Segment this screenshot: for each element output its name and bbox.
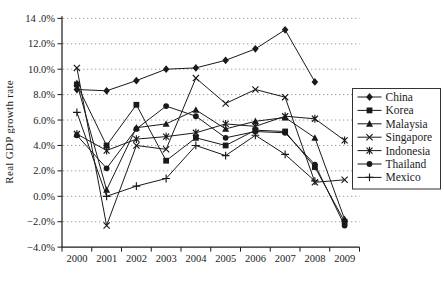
series-singapore: [74, 65, 348, 229]
series-china: [74, 26, 319, 95]
y-tick-label: −2.0%: [27, 216, 55, 227]
x-tick-label: 2007: [275, 253, 296, 264]
y-tick-label: 0.0%: [33, 191, 55, 202]
x-tick-label: 2006: [245, 253, 266, 264]
legend-label: China: [386, 91, 413, 103]
x-tick-label: 2009: [334, 253, 355, 264]
y-tick-label: 4.0%: [33, 140, 55, 151]
axes: 14 .0%12.0%10.0%8.0%6.0%4.0%2.0%0.0%−2.0…: [25, 13, 359, 264]
gdp-line-chart: 14 .0%12.0%10.0%8.0%6.0%4.0%2.0%0.0%−2.0…: [0, 0, 444, 282]
series-line-indonesia: [77, 116, 345, 150]
y-tick-label: 12.0%: [28, 38, 55, 49]
series-line-china: [77, 30, 315, 91]
legend-label: Mexico: [386, 171, 421, 183]
y-tick-label: 6.0%: [33, 115, 55, 126]
legend-label: Singapore: [386, 131, 433, 144]
legend: ChinaKoreaMalaysiaSingaporeIndonesiaThai…: [353, 89, 441, 190]
y-tick-label: 2.0%: [33, 165, 55, 176]
series-mexico: [73, 109, 319, 201]
x-tick-label: 2001: [96, 253, 117, 264]
legend-label: Malaysia: [386, 118, 428, 131]
x-tick-label: 2004: [185, 253, 207, 264]
legend-label: Thailand: [386, 158, 427, 170]
x-tick-label: 2002: [126, 253, 147, 264]
y-tick-label: 14 .0%: [25, 13, 55, 24]
x-tick-label: 2008: [304, 253, 325, 264]
legend-label: Indonesia: [386, 145, 431, 157]
y-tick-label: 8.0%: [33, 89, 55, 100]
series-line-mexico: [77, 112, 315, 196]
legend-label: Korea: [386, 104, 414, 116]
y-tick-label: −4.0%: [27, 242, 55, 253]
series-thailand: [74, 103, 348, 228]
x-tick-label: 2000: [66, 253, 87, 264]
x-tick-label: 2003: [156, 253, 177, 264]
x-tick-label: 2005: [215, 253, 236, 264]
y-tick-label: 10.0%: [28, 64, 55, 75]
series-line-thailand: [77, 106, 345, 225]
gdp-growth-chart-figure: Real GDP growth rate 14 .0%12.0%10.0%8.0…: [0, 0, 444, 282]
